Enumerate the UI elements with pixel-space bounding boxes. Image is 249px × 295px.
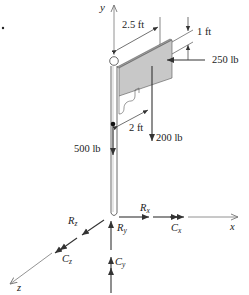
- dimension-2ft: 2 ft: [118, 110, 148, 133]
- y-axis-label: y: [99, 1, 105, 13]
- reaction-cz-sub: z: [68, 257, 72, 266]
- reaction-ry: Ry: [111, 221, 127, 250]
- sign-pole: [111, 66, 117, 216]
- dimension-label-1ft: 1 ft: [197, 26, 211, 37]
- dimension-label-2-5ft: 2.5 ft: [122, 19, 144, 30]
- svg-text:Cx: Cx: [171, 222, 182, 235]
- reaction-cx-sub: x: [177, 226, 182, 235]
- reaction-rx: Rx: [119, 202, 150, 217]
- load-250lb: 250 lb: [167, 54, 239, 65]
- svg-text:Ry: Ry: [116, 222, 127, 235]
- reaction-cx: Cx: [153, 217, 184, 235]
- reaction-cz: Cz: [55, 238, 77, 266]
- svg-text:Cy: Cy: [115, 256, 126, 269]
- sign-post-free-body-diagram: y 2.5 ft 1 ft 250 lb 200 lb: [0, 0, 249, 295]
- load-label-250lb: 250 lb: [212, 54, 239, 65]
- dimension-label-2ft: 2 ft: [129, 122, 143, 133]
- pole-cg-dot: [111, 122, 116, 127]
- dimension-1ft: 1 ft: [172, 17, 211, 60]
- reaction-rz: Rz: [67, 215, 104, 235]
- sign-board: [117, 39, 172, 96]
- reaction-rz-sub: z: [73, 219, 77, 228]
- x-axis: x: [188, 217, 238, 232]
- x-axis-label: x: [229, 221, 235, 232]
- stray-dot: [2, 27, 4, 29]
- reaction-cy-sub: y: [121, 260, 126, 269]
- svg-text:Rx: Rx: [139, 202, 150, 215]
- reaction-ry-sub: y: [122, 226, 127, 235]
- z-axis: z: [10, 253, 52, 293]
- load-500lb: 500 lb: [74, 122, 115, 155]
- svg-text:Cz: Cz: [62, 253, 72, 266]
- load-label-200lb: 200 lb: [156, 132, 183, 143]
- z-axis-label: z: [16, 282, 21, 293]
- svg-text:Rz: Rz: [67, 215, 77, 228]
- y-axis: y: [99, 1, 114, 55]
- reaction-rx-sub: x: [145, 206, 150, 215]
- reaction-cy: Cy: [111, 256, 126, 293]
- load-label-500lb: 500 lb: [74, 143, 101, 154]
- pole-top-ball: [110, 57, 119, 66]
